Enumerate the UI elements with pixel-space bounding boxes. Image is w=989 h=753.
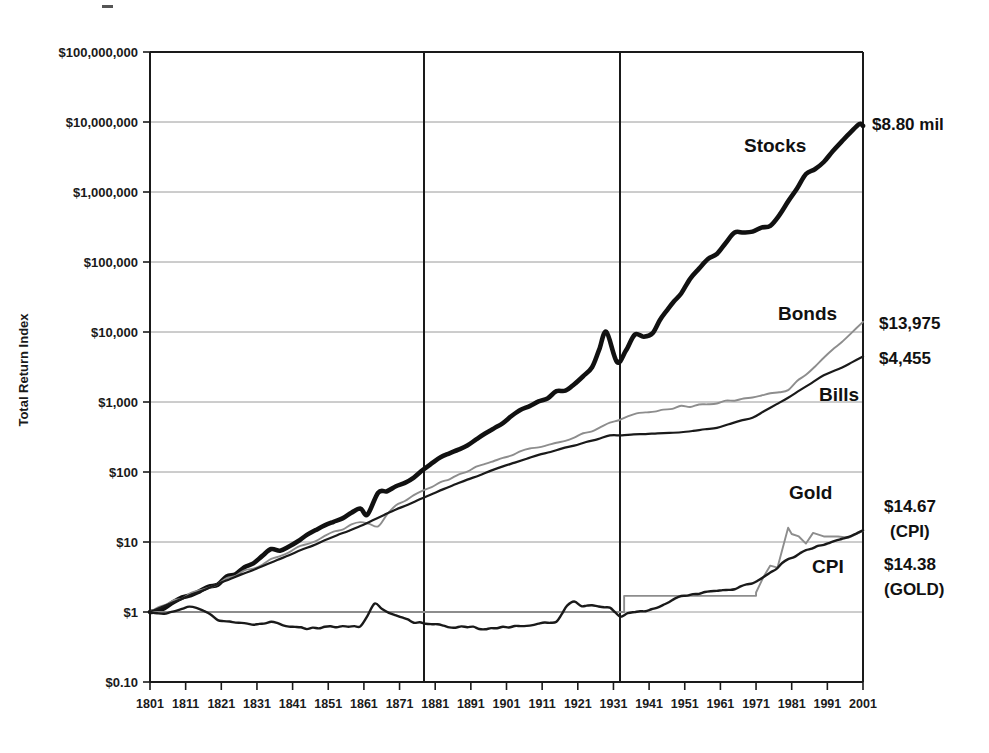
- x-tick-label: 1891: [457, 697, 485, 711]
- series-label-gold: Gold: [789, 482, 832, 503]
- x-tick-label: 1881: [421, 697, 449, 711]
- end-label-cpi-name: (CPI): [890, 522, 930, 541]
- end-label-cpi-value: $14.67: [884, 497, 936, 516]
- x-tick-labels: 1801181118211831184118511861187118811891…: [136, 697, 877, 711]
- x-tick-label: 1811: [172, 697, 199, 711]
- y-tick-label: $100,000: [84, 255, 138, 270]
- y-tick-label: $1: [124, 605, 138, 620]
- x-tick-label: 1991: [813, 697, 841, 711]
- end-label-gold-name: (GOLD): [884, 580, 944, 599]
- end-label-gold-value: $14.38: [884, 555, 936, 574]
- x-tick-label: 1961: [706, 697, 734, 711]
- x-tick-label: 1911: [529, 697, 556, 711]
- x-tick-label: 1921: [564, 697, 592, 711]
- scan-artifact: [102, 5, 113, 8]
- y-tick-label: $100,000,000: [58, 45, 138, 60]
- y-tick-label: $1,000: [98, 395, 138, 410]
- end-label-bills: $4,455: [879, 349, 931, 368]
- y-tick-label: $1,000,000: [73, 185, 138, 200]
- y-tick-label: $0.10: [105, 675, 138, 690]
- chart-background: [0, 0, 989, 753]
- x-tick-label: 1801: [136, 697, 164, 711]
- end-label-bonds: $13,975: [879, 314, 940, 333]
- x-tick-label: 1901: [493, 697, 521, 711]
- x-tick-label: 1841: [279, 697, 307, 711]
- total-return-index-chart: $100,000,000$10,000,000$1,000,000$100,00…: [0, 0, 989, 753]
- x-tick-marks: [150, 682, 863, 690]
- y-tick-label: $10: [116, 535, 138, 550]
- y-axis-title: Total Return Index: [16, 313, 31, 427]
- y-tick-label: $10,000,000: [66, 115, 138, 130]
- series-label-stocks: Stocks: [744, 135, 806, 156]
- y-tick-label: $100: [109, 465, 138, 480]
- end-label-stocks: $8.80 mil: [872, 115, 944, 134]
- y-tick-label: $10,000: [91, 325, 138, 340]
- x-tick-label: 1931: [600, 697, 628, 711]
- series-label-bonds: Bonds: [778, 303, 837, 324]
- series-label-bills: Bills: [819, 384, 859, 405]
- series-label-cpi: CPI: [812, 556, 844, 577]
- x-tick-label: 1851: [314, 697, 342, 711]
- x-tick-label: 1971: [742, 697, 770, 711]
- x-tick-label: 1861: [350, 697, 378, 711]
- x-tick-label: 1871: [386, 697, 414, 711]
- x-tick-label: 2001: [849, 697, 877, 711]
- x-tick-label: 1981: [778, 697, 806, 711]
- x-tick-label: 1951: [671, 697, 699, 711]
- x-tick-label: 1941: [635, 697, 663, 711]
- chart-container: $100,000,000$10,000,000$1,000,000$100,00…: [0, 0, 989, 753]
- x-tick-label: 1821: [207, 697, 235, 711]
- x-tick-label: 1831: [243, 697, 271, 711]
